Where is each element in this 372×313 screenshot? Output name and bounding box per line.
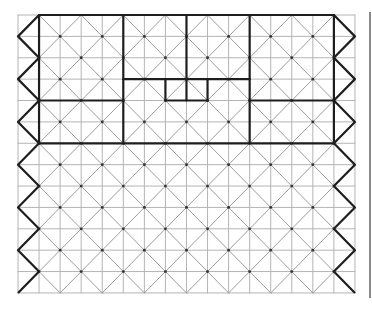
vertex-dot: [185, 163, 188, 166]
vertex-dot: [206, 270, 209, 273]
vertex-dot: [269, 121, 272, 124]
vertex-dot: [164, 185, 167, 188]
left-zigzag: [18, 15, 39, 293]
vertex-dot: [143, 163, 146, 166]
vertex-dot: [269, 163, 272, 166]
vertex-dot: [101, 249, 104, 252]
vertex-dot: [227, 206, 230, 209]
vertex-dot: [143, 206, 146, 209]
diagonal-line: [165, 15, 355, 207]
diagonal-line: [18, 15, 208, 207]
vertex-dot: [143, 35, 146, 38]
vertex-dot: [122, 227, 125, 230]
vertex-dot: [311, 206, 314, 209]
vertex-dot: [185, 121, 188, 124]
vertex-dot: [59, 78, 62, 81]
vertex-dot: [164, 56, 167, 59]
vertex-dot: [269, 78, 272, 81]
vertex-dot: [311, 78, 314, 81]
vertex-dot: [206, 185, 209, 188]
vertex-dot: [59, 206, 62, 209]
vertex-dot: [101, 35, 104, 38]
vertex-dot: [80, 270, 83, 273]
vertex-dot: [269, 249, 272, 252]
vertex-dot: [290, 185, 293, 188]
vertex-dot: [311, 35, 314, 38]
tiling-diagram: [0, 0, 372, 313]
vertex-dot: [269, 206, 272, 209]
vertex-dot: [101, 78, 104, 81]
vertex-dot: [164, 227, 167, 230]
vertex-dot: [80, 56, 83, 59]
vertex-dot: [227, 35, 230, 38]
diagonal-line: [18, 15, 250, 250]
right-zigzag: [334, 15, 355, 293]
vertex-dot: [206, 227, 209, 230]
vertex-dot: [185, 206, 188, 209]
vertex-dot: [248, 270, 251, 273]
vertex-dot: [248, 185, 251, 188]
vertex-dot: [227, 121, 230, 124]
vertex-dot: [290, 227, 293, 230]
vertex-dot: [101, 121, 104, 124]
vertex-dot: [122, 185, 125, 188]
diagonal-line: [39, 15, 313, 293]
vertex-dot: [164, 270, 167, 273]
vertex-dot: [269, 35, 272, 38]
vertex-dot: [59, 163, 62, 166]
vertex-dot: [122, 270, 125, 273]
vertex-dot: [290, 56, 293, 59]
vertex-dot: [143, 249, 146, 252]
vertex-dot: [248, 227, 251, 230]
vertex-dot: [311, 249, 314, 252]
diagonal-line: [60, 15, 334, 293]
vertex-dot: [185, 249, 188, 252]
diagonal-line: [123, 15, 355, 250]
vertex-dot: [59, 35, 62, 38]
vertex-dot: [59, 249, 62, 252]
vertex-dot: [80, 227, 83, 230]
vertex-dot: [101, 163, 104, 166]
vertex-dot: [80, 185, 83, 188]
vertex-dot: [101, 206, 104, 209]
vertex-dot: [227, 249, 230, 252]
vertex-dot: [143, 121, 146, 124]
vertex-dot: [311, 163, 314, 166]
vertex-dot: [206, 56, 209, 59]
vertical-separator: [369, 12, 371, 298]
vertex-dot: [311, 121, 314, 124]
vertex-dot: [290, 270, 293, 273]
vertex-dot: [59, 121, 62, 124]
vertex-dot: [227, 163, 230, 166]
